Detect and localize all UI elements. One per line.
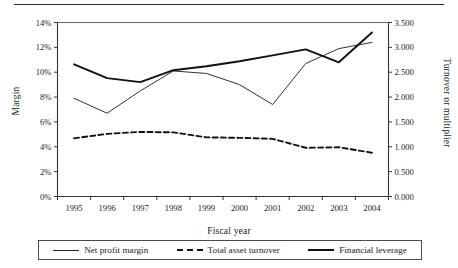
legend-swatch-icon <box>53 250 79 251</box>
x-tick-label: 2003 <box>330 203 347 213</box>
legend-item: Total asset turnover <box>177 245 280 255</box>
x-tick-label: 2002 <box>297 203 314 213</box>
y-tick-label-right: 1.500 <box>395 117 414 127</box>
legend-item: Net profit margin <box>53 245 148 255</box>
y-tick-label-left: 12% <box>36 42 52 52</box>
y-tick-label-left: 6% <box>40 117 51 127</box>
x-tick-label: 2000 <box>231 203 248 213</box>
y-tick-label-right: 0.500 <box>395 167 414 177</box>
x-tick-label: 1999 <box>198 203 215 213</box>
y-tick-label-left: 4% <box>40 142 51 152</box>
x-axis-label: Fiscal year <box>0 226 458 236</box>
y-tick-label-left: 2% <box>40 167 51 177</box>
x-tick-label: 1997 <box>132 203 150 213</box>
legend-item-label: Net profit margin <box>84 245 148 255</box>
legend-swatch-icon <box>308 249 334 251</box>
y-tick-label-left: 14% <box>36 18 52 28</box>
y-tick-label-right: 3.500 <box>395 18 414 28</box>
x-tick-label: 1995 <box>65 203 82 213</box>
series-line-total-asset-turnover <box>74 132 372 153</box>
x-tick-label: 2004 <box>363 203 381 213</box>
x-tick-label: 1998 <box>165 203 182 213</box>
y-tick-label-right: 3.000 <box>395 42 414 52</box>
x-tick-label: 2001 <box>264 203 281 213</box>
legend-item-label: Total asset turnover <box>208 245 280 255</box>
y-tick-label-right: 1.000 <box>395 142 414 152</box>
chart-legend: Net profit marginTotal asset turnoverFin… <box>38 240 422 260</box>
y-axis-label-left: Margin <box>11 71 21 131</box>
y-tick-label-right: 2.500 <box>395 67 414 77</box>
y-axis-label-right: Turnover or multiplier <box>442 58 452 144</box>
legend-swatch-icon <box>177 249 203 251</box>
y-tick-label-right: 0.000 <box>395 192 414 202</box>
y-tick-label-left: 8% <box>40 92 51 102</box>
series-line-financial-leverage <box>74 32 372 82</box>
legend-item: Financial leverage <box>308 245 407 255</box>
y-tick-label-right: 2.000 <box>395 92 414 102</box>
y-tick-label-left: 10% <box>36 67 52 77</box>
legend-item-label: Financial leverage <box>339 245 407 255</box>
x-tick-label: 1996 <box>99 203 117 213</box>
series-line-net-profit-margin <box>74 42 372 113</box>
y-tick-label-left: 0% <box>40 192 51 202</box>
chart-figure: 0%2%4%6%8%10%12%14%0.0000.5001.0001.5002… <box>0 0 458 268</box>
